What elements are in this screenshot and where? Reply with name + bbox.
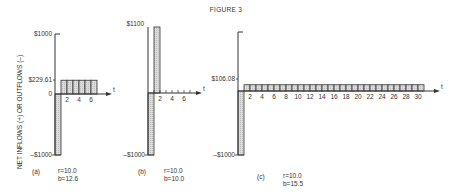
x-tick-label: 10 [294, 93, 302, 100]
bar [280, 85, 286, 91]
x-tick-label: 8 [284, 93, 288, 100]
bar [61, 80, 67, 94]
caption-r: r=10.0 [58, 167, 77, 174]
x-tick-label: 28 [402, 93, 410, 100]
bar [73, 80, 79, 94]
bar [406, 85, 412, 91]
x-tick-label: 20 [354, 93, 362, 100]
bar [79, 80, 85, 94]
x-axis-label: t [441, 83, 443, 90]
panel-b: t246$1100–$1000(b)r=10.0b=10.0 [123, 20, 205, 182]
bar [262, 85, 268, 91]
bar [322, 85, 328, 91]
panel-a: t246$1000$229.610–$1000(a)r=10.0b=12.6 [29, 30, 116, 182]
bar [334, 85, 340, 91]
x-tick-label: 24 [378, 93, 386, 100]
figure-3: FIGURE 3 NET INFLOWS (+) OR OUTFLOWS (–)… [0, 0, 450, 192]
x-axis-label: t [203, 85, 205, 92]
caption-b: b=15.5 [283, 180, 303, 187]
bar [292, 85, 298, 91]
panel-c: t24681012141618202224262830$106.08–$1000… [212, 32, 444, 187]
bar [316, 85, 322, 91]
bar [346, 85, 352, 91]
bar [154, 27, 160, 93]
y-tick-label: $1000 [34, 30, 52, 37]
x-tick-label: 2 [248, 93, 252, 100]
caption-r: r=10.0 [283, 172, 302, 179]
bar [412, 85, 418, 91]
bar [400, 85, 406, 91]
figure-title: FIGURE 3 [210, 6, 242, 13]
bar [268, 85, 274, 91]
panel-label: (b) [138, 168, 146, 176]
x-axis-arrow-icon [196, 91, 202, 95]
bar [340, 85, 346, 91]
bar [388, 85, 394, 91]
caption-r: r=10.0 [164, 167, 183, 174]
x-tick-label: 4 [77, 96, 81, 103]
panel-label: (c) [257, 173, 265, 181]
x-tick-label: 30 [414, 93, 422, 100]
bar [358, 85, 364, 91]
y-tick-label: –$1000 [213, 151, 235, 158]
y-tick-label: –$1000 [123, 151, 145, 158]
bar [274, 85, 280, 91]
bar [85, 80, 91, 94]
bar [310, 85, 316, 91]
bar [370, 85, 376, 91]
x-tick-label: 2 [65, 96, 69, 103]
bar [91, 80, 97, 94]
x-tick-label: 2 [158, 95, 162, 102]
x-tick-label: 12 [306, 93, 314, 100]
bar [364, 85, 370, 91]
bar [376, 85, 382, 91]
x-axis-arrow-icon [106, 92, 112, 96]
caption-b: b=12.6 [58, 175, 78, 182]
y-tick-label: $1100 [126, 20, 144, 27]
caption-b: b=10.0 [164, 175, 184, 182]
x-tick-label: 26 [390, 93, 398, 100]
bar [67, 80, 73, 94]
x-axis-label: t [113, 86, 115, 93]
panel-label: (a) [32, 168, 40, 176]
y-tick-label: $229.61 [29, 76, 53, 83]
bar [238, 91, 244, 155]
bar [352, 85, 358, 91]
x-tick-label: 4 [170, 95, 174, 102]
x-tick-label: 18 [342, 93, 350, 100]
x-axis-arrow-icon [434, 89, 440, 93]
x-tick-label: 6 [182, 95, 186, 102]
bar [250, 85, 256, 91]
bar [394, 85, 400, 91]
x-tick-label: 14 [318, 93, 326, 100]
bar [55, 94, 61, 155]
bar [328, 85, 334, 91]
x-tick-label: 4 [260, 93, 264, 100]
bar [148, 93, 154, 155]
bar [256, 85, 262, 91]
bar [304, 85, 310, 91]
x-tick-label: 6 [272, 93, 276, 100]
bar [382, 85, 388, 91]
y-tick-label: 0 [48, 90, 52, 97]
x-tick-label: 22 [366, 93, 374, 100]
x-tick-label: 6 [89, 96, 93, 103]
y-tick-label: $106.08 [212, 75, 236, 82]
y-tick-label: –$1000 [30, 151, 52, 158]
bar [418, 85, 424, 91]
bar [298, 85, 304, 91]
x-tick-label: 16 [330, 93, 338, 100]
y-axis-label: NET INFLOWS (+) OR OUTFLOWS (–) [16, 55, 24, 169]
bar [244, 85, 250, 91]
bar [286, 85, 292, 91]
